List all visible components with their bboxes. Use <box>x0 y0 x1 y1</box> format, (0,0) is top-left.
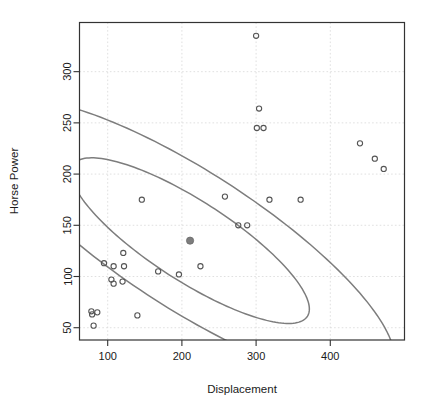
data-point <box>91 323 96 328</box>
data-point <box>198 264 203 269</box>
gridlines-group <box>80 23 405 341</box>
y-axis-title: Horse Power <box>8 148 20 215</box>
data-point <box>156 269 161 274</box>
data-point <box>139 197 144 202</box>
data-point <box>381 166 386 171</box>
data-point <box>111 281 116 286</box>
data-point <box>120 279 125 284</box>
data-point <box>357 141 362 146</box>
data-point <box>267 197 272 202</box>
y-axis-ticks: 50100150200250300 <box>62 62 80 333</box>
x-tick-label: 200 <box>173 350 191 362</box>
y-tick-label: 150 <box>62 216 74 234</box>
scatter-plot-figure: 100200300400 50100150200250300 Displacem… <box>0 0 424 414</box>
y-tick-label: 50 <box>62 322 74 334</box>
y-tick-label: 100 <box>62 267 74 285</box>
x-tick-label: 400 <box>321 350 339 362</box>
data-point <box>261 125 266 130</box>
data-point <box>121 250 126 255</box>
data-point <box>372 156 377 161</box>
plot-frame <box>80 23 405 341</box>
data-point <box>298 197 303 202</box>
x-tick-label: 300 <box>247 350 265 362</box>
plot-canvas: 100200300400 50100150200250300 Displacem… <box>0 0 424 414</box>
data-point <box>222 194 227 199</box>
y-tick-label: 200 <box>62 165 74 183</box>
data-point <box>135 313 140 318</box>
x-axis-title: Displacement <box>207 383 277 395</box>
x-tick-label: 100 <box>99 350 117 362</box>
data-point <box>121 264 126 269</box>
data-point <box>254 125 259 130</box>
y-tick-label: 250 <box>62 114 74 132</box>
x-axis-ticks: 100200300400 <box>99 340 340 362</box>
centroid-marker <box>186 237 193 244</box>
data-point <box>95 310 100 315</box>
data-point <box>111 264 116 269</box>
data-points-group <box>89 33 387 328</box>
y-tick-label: 300 <box>62 62 74 80</box>
data-point <box>256 106 261 111</box>
data-point <box>90 312 95 317</box>
centroid-point <box>186 237 193 244</box>
